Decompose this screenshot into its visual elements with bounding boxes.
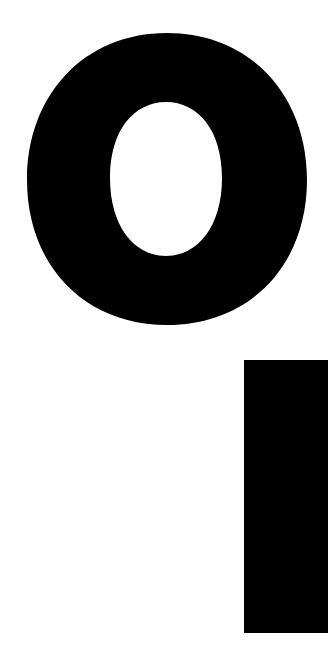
vertical-bar-shape bbox=[244, 360, 328, 633]
letter-o-shape bbox=[0, 0, 332, 340]
